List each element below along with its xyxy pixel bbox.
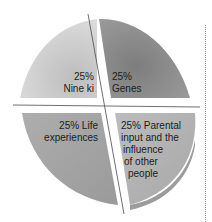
label-nine-ki: 25%Nine ki [50,71,94,95]
dotted-border [205,25,206,222]
horizontal-divider [13,105,200,107]
pie-chart [0,0,212,222]
label-parental: 25% Parental input and the influence of … [121,120,201,180]
label-genes: 25%Genes [112,71,172,95]
label-life-experiences: 25% Lifeexperiences [30,120,98,144]
